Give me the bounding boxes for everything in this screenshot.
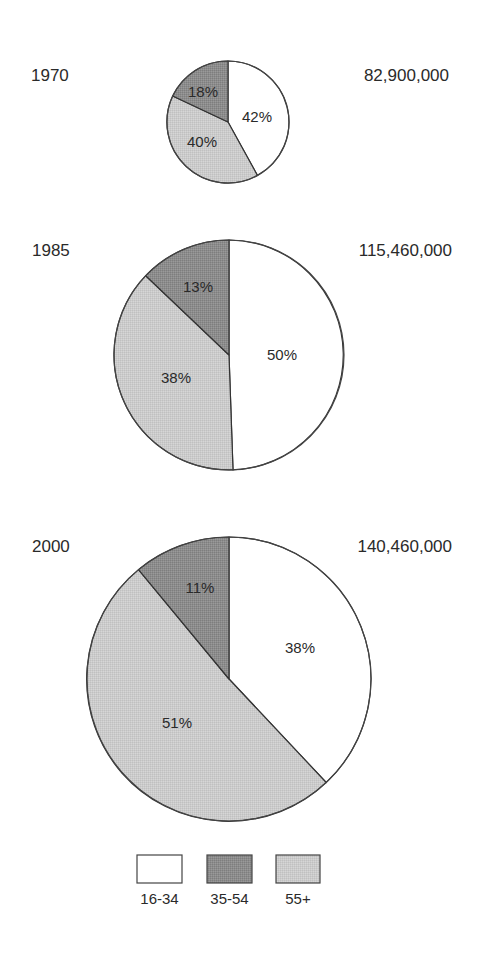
legend: 16-34 35-54 55+ (137, 855, 320, 907)
legend-label: 35-54 (210, 890, 248, 907)
pct-label-16-34: 50% (267, 346, 297, 363)
pct-label-55-plus: 38% (161, 369, 191, 386)
total-label: 140,460,000 (357, 537, 452, 556)
total-label: 115,460,000 (359, 241, 452, 260)
legend-item-16-34: 16-34 (137, 855, 182, 907)
pie-chart-1985: 1985 115,460,000 13% 50% 38% (32, 240, 452, 470)
pie-charts-figure: 1970 82,900,000 18% 42% 40% 1985 115,460… (0, 0, 481, 955)
legend-swatch-55-plus (276, 855, 320, 883)
pct-label-55-plus: 40% (187, 133, 217, 150)
legend-label: 55+ (285, 890, 311, 907)
total-label: 82,900,000 (364, 66, 449, 85)
year-label: 2000 (32, 537, 70, 556)
pct-label-35-54: 18% (188, 83, 218, 100)
year-label: 1985 (32, 241, 70, 260)
legend-item-35-54: 35-54 (207, 855, 252, 907)
legend-swatch-16-34 (137, 855, 182, 883)
year-label: 1970 (31, 66, 69, 85)
legend-label: 16-34 (140, 890, 178, 907)
pct-label-16-34: 38% (285, 639, 315, 656)
legend-swatch-35-54 (207, 855, 252, 883)
pie-chart-2000: 2000 140,460,000 11% 38% 51% (32, 537, 452, 821)
pct-label-35-54: 13% (183, 278, 213, 295)
pct-label-16-34: 42% (242, 108, 272, 125)
pie-chart-1970: 1970 82,900,000 18% 42% 40% (31, 61, 449, 183)
legend-item-55-plus: 55+ (276, 855, 320, 907)
pct-label-35-54: 11% (186, 579, 215, 596)
pct-label-55-plus: 51% (162, 714, 192, 731)
